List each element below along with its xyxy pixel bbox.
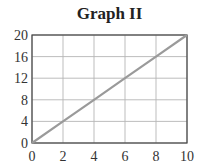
y-tick-label: 20 [14, 28, 28, 43]
x-tick-label: 8 [153, 149, 160, 164]
y-tick-label: 16 [14, 50, 28, 65]
y-tick-label: 0 [21, 136, 28, 151]
line-chart: 048121620 0246810 [0, 0, 201, 168]
x-tick-label: 0 [29, 149, 36, 164]
y-tick-label: 4 [21, 114, 28, 129]
x-tick-label: 4 [91, 149, 98, 164]
x-tick-label: 2 [60, 149, 67, 164]
y-tick-label: 12 [14, 71, 28, 86]
x-axis-ticks: 0246810 [29, 149, 195, 164]
data-series [32, 35, 187, 143]
series-line [32, 35, 187, 143]
x-tick-label: 6 [122, 149, 129, 164]
y-tick-label: 8 [21, 93, 28, 108]
x-tick-label: 10 [180, 149, 194, 164]
y-axis-ticks: 048121620 [14, 28, 28, 151]
